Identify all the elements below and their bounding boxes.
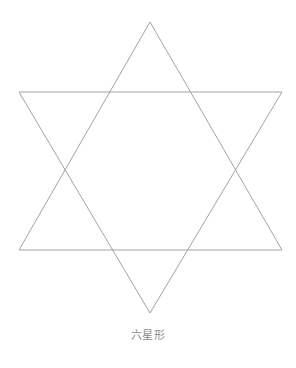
figure-caption: 六星形: [0, 329, 296, 343]
downward-triangle: [19, 92, 282, 313]
upward-triangle: [19, 22, 282, 250]
hexagram-figure: [0, 0, 296, 368]
figure-canvas: [0, 0, 296, 368]
